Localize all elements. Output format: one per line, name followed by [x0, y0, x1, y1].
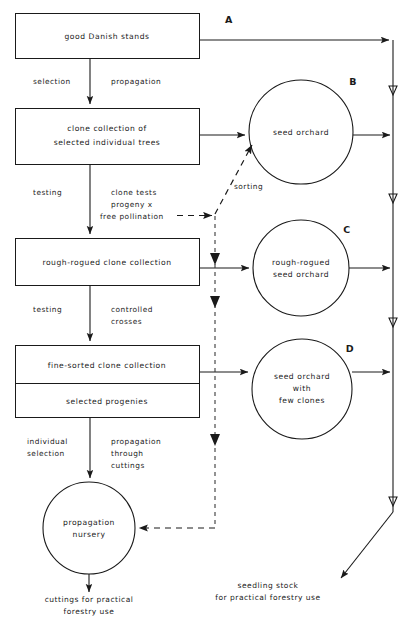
circle-label-rough-rogued-seed-orchard-line2: seed orchard: [273, 270, 329, 279]
edge-label-controlled-crosses-line1: controlled: [111, 305, 153, 314]
edge-label-clone-tests-line3: free pollination: [100, 212, 164, 221]
box-label-good-danish-stands: good Danish stands: [64, 32, 149, 41]
box-label-clone-collection-line2: selected individual trees: [54, 138, 161, 147]
edge-label-testing-1: testing: [33, 188, 62, 197]
circle-label-few-clones-line1: seed orchard: [274, 372, 330, 381]
circle-seed-orchard-few-clones: seed orchard with few clones: [252, 339, 352, 439]
branch-letter-a: A: [225, 14, 233, 25]
circle-label-rough-rogued-seed-orchard-line1: rough-rogued: [272, 258, 330, 267]
edge-label-propagation: propagation: [111, 77, 161, 86]
breeding-scheme-diagram: good Danish stands clone collection of s…: [0, 0, 411, 623]
edge-label-propagation-cuttings-line1: propagation: [111, 437, 161, 446]
box-label-fine-sorted-clone-collection: fine-sorted clone collection: [48, 361, 166, 370]
diagram-canvas: good Danish stands clone collection of s…: [0, 0, 411, 623]
edge-label-sorting: sorting: [234, 182, 263, 191]
right-collector-spine: [389, 40, 397, 512]
edge-label-clone-tests-line1: clone tests: [111, 188, 157, 197]
box-rough-rogued-clone-collection: rough-rogued clone collection: [16, 239, 200, 286]
box-label-rough-rogued-clone-collection: rough-rogued clone collection: [42, 258, 171, 267]
output-label-seedling-stock-line2: for practical forestry use: [215, 593, 320, 602]
edge-label-controlled-crosses-line2: crosses: [111, 317, 142, 326]
edge-label-selection: selection: [33, 77, 71, 86]
circle-label-propagation-nursery-line2: nursery: [73, 530, 106, 539]
box-label-clone-collection-line1: clone collection of: [67, 124, 146, 133]
box-fine-sorted-clone-collection: fine-sorted clone collection selected pr…: [16, 346, 200, 418]
output-label-cuttings-line1: cuttings for practical: [45, 595, 134, 604]
output-label-seedling-stock-line1: seedling stock: [238, 581, 299, 590]
edge-label-testing-2: testing: [33, 305, 62, 314]
circle-label-few-clones-line3: few clones: [279, 396, 325, 405]
edge-label-propagation-cuttings-line2: through: [111, 449, 144, 458]
circle-label-propagation-nursery-line1: propagation: [63, 518, 115, 527]
circle-seed-orchard: seed orchard: [249, 80, 353, 184]
edge-label-propagation-cuttings-line3: cuttings: [111, 461, 145, 470]
edge-label-clone-tests-line2: progeny x: [111, 200, 153, 209]
branch-letter-d: D: [346, 343, 354, 354]
circle-rough-rogued-seed-orchard: rough-rogued seed orchard: [253, 220, 349, 316]
box-label-selected-progenies: selected progenies: [66, 397, 148, 406]
circle-propagation-nursery: propagation nursery: [43, 482, 135, 574]
circle-label-seed-orchard: seed orchard: [273, 128, 329, 137]
circle-label-few-clones-line2: with: [293, 384, 311, 393]
box-good-danish-stands: good Danish stands: [16, 14, 200, 59]
dashed-sorting-arrow: [215, 145, 252, 214]
edge-label-individual-selection-line1: individual: [27, 437, 68, 446]
box-clone-collection: clone collection of selected individual …: [16, 109, 200, 165]
diagonal-seedling-stock-arrow: [341, 512, 393, 578]
output-label-cuttings-line2: forestry use: [64, 607, 115, 616]
branch-letter-c: C: [343, 224, 350, 235]
branch-letter-b: B: [349, 76, 357, 87]
edge-label-individual-selection-line2: selection: [27, 449, 65, 458]
